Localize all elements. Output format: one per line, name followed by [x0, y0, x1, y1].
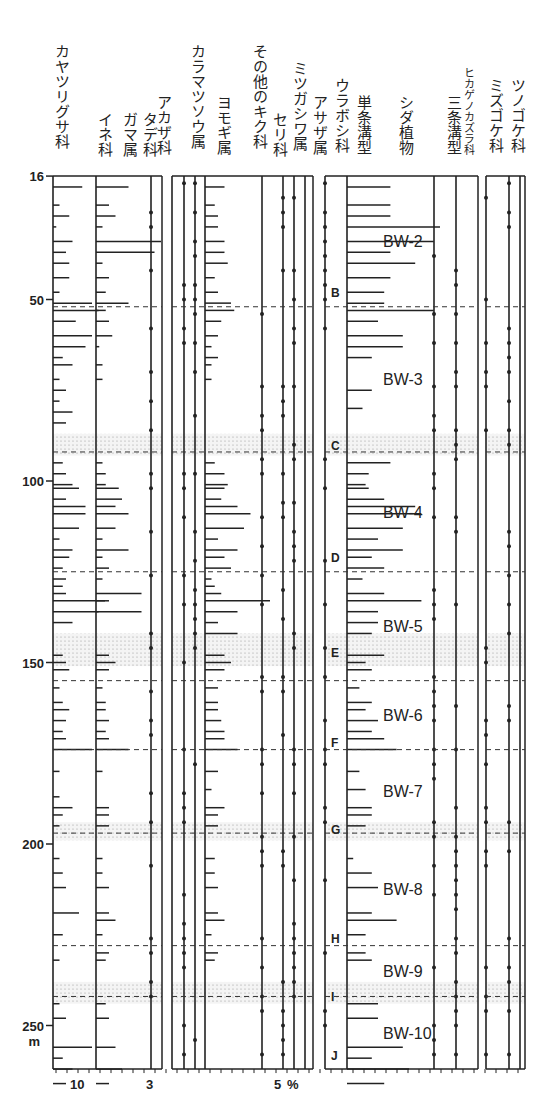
taxon-header: ミズゴケ科 [486, 78, 503, 153]
svg-text:I: I [331, 990, 334, 1004]
taxon-header: イネ科 [95, 112, 112, 157]
svg-text:E: E [331, 646, 339, 660]
svg-text:C: C [331, 439, 340, 453]
taxon-header: ヨモギ属 [214, 95, 231, 155]
taxon-header: シダ植物 [396, 95, 413, 155]
svg-text:B: B [331, 286, 340, 300]
svg-text:10: 10 [70, 1077, 84, 1092]
taxon-header: カヤツリグサ科 [52, 44, 69, 149]
taxon-header: ツノゴケ科 [508, 78, 525, 153]
svg-text:BW-2: BW-2 [383, 233, 423, 250]
svg-text:BW-4: BW-4 [383, 504, 423, 521]
taxon-header: セリ科 [270, 112, 287, 157]
svg-text:D: D [331, 551, 340, 565]
taxon-header: ウラボシ科 [332, 78, 349, 153]
svg-text:BW-10: BW-10 [383, 1025, 432, 1042]
depth-tick-label: 150 [22, 656, 44, 671]
svg-text:F: F [331, 736, 338, 750]
depth-tick-label: 100 [22, 474, 44, 489]
svg-text:BW-9: BW-9 [383, 963, 423, 980]
taxon-header: アカザ科 [154, 95, 171, 155]
taxon-header: 三条溝型 [444, 95, 461, 155]
svg-text:3: 3 [146, 1077, 153, 1092]
taxon-header: アサザ属 [310, 95, 327, 155]
svg-text:%: % [287, 1077, 299, 1092]
abundance-bars [53, 181, 511, 1083]
taxon-header: ヒカゲノカズラ科 [462, 67, 474, 155]
taxon-header: その他のキク科 [250, 44, 267, 149]
shaded-bands [53, 434, 525, 1004]
svg-text:BW-6: BW-6 [383, 707, 423, 724]
svg-text:H: H [331, 932, 340, 946]
svg-text:J: J [331, 1049, 338, 1063]
pollen-diagram: 1650100150200250m1035% BW-2BW-3BW-4BW-5B… [0, 0, 540, 1105]
taxon-header: カラマツソウ属 [188, 44, 205, 149]
depth-tick-label: 250 [22, 1019, 44, 1034]
svg-text:BW-8: BW-8 [383, 881, 423, 898]
depth-tick-label: 16 [30, 169, 44, 184]
svg-text:m: m [28, 1034, 40, 1049]
svg-text:G: G [331, 823, 340, 837]
svg-text:BW-3: BW-3 [383, 371, 423, 388]
depth-tick-label: 50 [30, 293, 44, 308]
taxon-header: ミツガシワ属 [290, 61, 307, 151]
taxon-header: ガマ属 [120, 112, 137, 157]
panel-frames [53, 176, 525, 1069]
svg-text:5: 5 [274, 1077, 281, 1092]
depth-tick-label: 200 [22, 837, 44, 852]
svg-text:BW-7: BW-7 [383, 783, 423, 800]
svg-text:BW-5: BW-5 [383, 618, 423, 635]
taxon-header: 単条溝型 [354, 95, 371, 155]
